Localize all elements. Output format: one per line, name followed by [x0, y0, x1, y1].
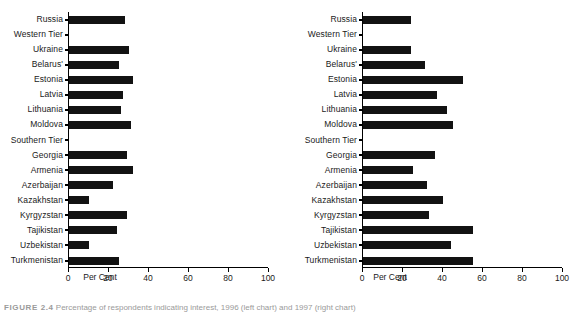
chart-panels: RussiaWestern TierUkraineBelarus'Estonia… — [0, 0, 581, 296]
bar — [69, 61, 119, 69]
category-label: Tajikistan — [321, 226, 357, 235]
plot-area-right: RussiaWestern TierUkraineBelarus'Estonia… — [362, 12, 562, 268]
bar — [363, 61, 425, 69]
bar — [69, 16, 125, 24]
bar-row: Western Tier — [68, 27, 268, 42]
category-label: Uzbekistan — [20, 241, 63, 250]
y-tick-mark — [359, 154, 363, 156]
bar — [363, 226, 473, 234]
y-tick-mark — [359, 79, 363, 81]
bar-row: Ukraine — [362, 42, 562, 57]
bar — [69, 211, 127, 219]
bar-row: Western Tier — [362, 27, 562, 42]
bar-row: Azerbaijan — [362, 178, 562, 193]
y-tick-mark — [359, 169, 363, 171]
bar-row: Georgia — [68, 148, 268, 163]
y-tick-mark — [65, 260, 69, 262]
bar — [363, 181, 427, 189]
bar — [69, 257, 119, 265]
category-label: Russia — [330, 15, 357, 24]
y-tick-mark — [65, 214, 69, 216]
figure-caption-label: FIGURE 2.4 — [4, 303, 54, 312]
category-label: Moldova — [324, 120, 357, 129]
bar-row: Kyrgyzstan — [68, 208, 268, 223]
chart-panel-right: RussiaWestern TierUkraineBelarus'Estonia… — [290, 0, 581, 296]
bar — [363, 91, 437, 99]
y-tick-mark — [65, 79, 69, 81]
bar-row: Azerbaijan — [68, 178, 268, 193]
y-tick-mark — [65, 109, 69, 111]
y-tick-mark — [359, 64, 363, 66]
y-tick-mark — [359, 260, 363, 262]
bar-row: Latvia — [362, 87, 562, 102]
bar-rows-right: RussiaWestern TierUkraineBelarus'Estonia… — [362, 12, 562, 268]
y-tick-mark — [359, 109, 363, 111]
bar-row: Armenia — [68, 163, 268, 178]
bar — [69, 91, 123, 99]
y-tick-mark — [359, 94, 363, 96]
bar-row: Moldova — [362, 117, 562, 132]
chart-panel-left: RussiaWestern TierUkraineBelarus'Estonia… — [0, 0, 290, 296]
bar — [363, 106, 447, 114]
y-tick-mark — [65, 34, 69, 36]
bar — [69, 151, 127, 159]
category-label: Ukraine — [327, 45, 357, 54]
category-label: Belarus' — [326, 60, 357, 69]
y-tick-mark — [65, 124, 69, 126]
bar — [363, 257, 473, 265]
bar — [363, 211, 429, 219]
y-tick-mark — [359, 214, 363, 216]
y-tick-mark — [65, 229, 69, 231]
category-label: Southern Tier — [305, 136, 357, 145]
category-label: Uzbekistan — [314, 241, 357, 250]
bar-row: Latvia — [68, 87, 268, 102]
bar — [69, 181, 113, 189]
bar-row: Georgia — [362, 148, 562, 163]
figure-caption-text: Percentage of respondents indicating int… — [56, 303, 356, 312]
bar-rows-left: RussiaWestern TierUkraineBelarus'Estonia… — [68, 12, 268, 268]
bar — [69, 166, 133, 174]
bar — [69, 226, 117, 234]
bar-row: Lithuania — [362, 102, 562, 117]
bar — [69, 46, 129, 54]
bar-row: Southern Tier — [362, 133, 562, 148]
bar — [363, 46, 411, 54]
bar-row: Tajikistan — [68, 223, 268, 238]
category-label: Belarus' — [32, 60, 63, 69]
y-tick-mark — [359, 229, 363, 231]
category-label: Estonia — [34, 75, 63, 84]
y-tick-mark — [359, 34, 363, 36]
category-label: Southern Tier — [11, 136, 63, 145]
y-tick-mark — [359, 199, 363, 201]
y-tick-mark — [359, 139, 363, 141]
category-label: Ukraine — [33, 45, 63, 54]
bar-row: Russia — [68, 12, 268, 27]
bar — [363, 121, 453, 129]
category-label: Russia — [36, 15, 63, 24]
x-tick-label: 80 — [223, 274, 232, 283]
category-label: Latvia — [40, 90, 63, 99]
category-label: Western Tier — [308, 30, 357, 39]
category-label: Kyrgyzstan — [20, 211, 63, 220]
bar — [363, 196, 443, 204]
plot-area-left: RussiaWestern TierUkraineBelarus'Estonia… — [68, 12, 268, 268]
x-ticks-right: 020406080100 — [362, 268, 562, 269]
category-label: Moldova — [30, 120, 63, 129]
y-tick-mark — [359, 49, 363, 51]
y-tick-mark — [65, 49, 69, 51]
y-tick-mark — [65, 64, 69, 66]
y-tick-mark — [65, 154, 69, 156]
bar — [69, 121, 131, 129]
bar-row: Estonia — [362, 72, 562, 87]
category-label: Kazakhstan — [18, 196, 63, 205]
category-label: Turkmenistan — [305, 256, 357, 265]
x-axis-title-right: Per Cent — [290, 272, 490, 282]
y-tick-mark — [65, 169, 69, 171]
bar-row: Southern Tier — [68, 133, 268, 148]
y-tick-mark — [65, 244, 69, 246]
bar-row: Moldova — [68, 117, 268, 132]
bar-row: Uzbekistan — [68, 238, 268, 253]
y-tick-mark — [359, 124, 363, 126]
bar — [69, 241, 89, 249]
category-label: Armenia — [325, 166, 357, 175]
